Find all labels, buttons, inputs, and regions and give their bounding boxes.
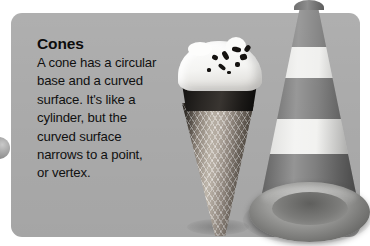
card-text-block: Cones A cone has a circular base and a c… <box>37 35 169 183</box>
traffic-cone-image <box>249 0 370 246</box>
chocolate-sprinkle <box>207 68 211 72</box>
card-body-text: A cone has a circular base and a curved … <box>37 54 169 183</box>
chocolate-sprinkle <box>227 71 231 74</box>
partial-circle-decoration <box>0 137 10 159</box>
traffic-cone-shading <box>259 2 359 208</box>
page-title: Cones <box>37 35 169 53</box>
ice-cream-bump <box>188 42 212 56</box>
traffic-cone-tip <box>294 0 324 10</box>
traffic-cone-base-inner <box>272 192 348 225</box>
page-canvas: Cones A cone has a circular base and a c… <box>0 0 370 246</box>
chocolate-sprinkle <box>235 62 240 67</box>
